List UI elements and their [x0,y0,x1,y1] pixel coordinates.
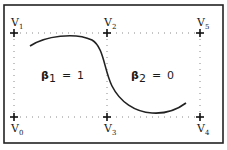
vertex-v5-marker [196,29,204,37]
vertex-v1-marker [10,29,18,37]
vertex-v2-marker [103,29,111,37]
vertex-v4-label: V4 [196,122,210,137]
diagram-canvas: V1 V2 V5 V0 V3 V4 β1=1 β2=0 [0,0,227,150]
vertex-v5-label: V5 [196,16,209,31]
region-beta1-equation: β1=1 [41,69,84,85]
vertex-v3-marker [103,113,111,121]
vertex-v1-label: V1 [10,16,23,31]
region-beta2-equation: β2=0 [131,69,174,85]
vertex-v3-label: V3 [103,122,116,137]
vertex-v4-marker [196,113,204,121]
vertex-v2-label: V2 [103,16,116,31]
vertex-v0-marker [10,113,18,121]
vertex-v0-label: V0 [10,122,23,137]
